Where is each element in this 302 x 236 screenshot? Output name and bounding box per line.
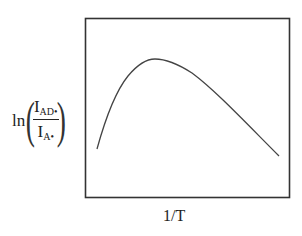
fraction-denominator: IA• [37, 120, 55, 142]
fraction-numerator: IAD• [33, 98, 59, 119]
y-label-fraction: IAD• IA• [33, 98, 59, 142]
y-label-ln: ln [12, 112, 25, 129]
left-paren: ( [26, 95, 35, 145]
data-curve [97, 59, 279, 156]
y-axis-label: ln ( IAD• IA• ) [12, 92, 69, 148]
plot-frame [86, 19, 290, 198]
right-paren: ) [56, 95, 65, 145]
numerator-subscript: AD• [40, 106, 58, 117]
x-axis-label: 1/T [163, 208, 185, 224]
denominator-subscript: A• [43, 131, 54, 142]
